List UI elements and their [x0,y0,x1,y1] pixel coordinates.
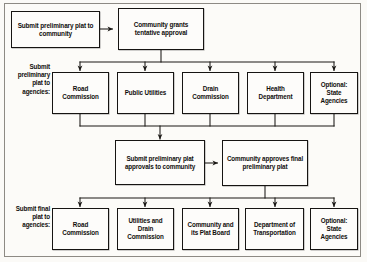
node-label: Department of Transportation [248,221,301,236]
node-optional-state-agencies-final[interactable]: Optional: State Agencies [310,208,358,250]
node-label: Health Department [250,85,301,100]
side-label-text: Submit final plat to agencies: [16,205,50,228]
node-label: Optional: State Agencies [313,81,355,104]
node-label: Community approves final preliminary pla… [225,155,305,170]
node-public-utilities[interactable]: Public Utilities [117,72,174,114]
node-road-commission-final[interactable]: Road Commission [52,208,109,250]
node-label: Community and its Plat Board [185,221,236,236]
node-drain-commission[interactable]: Drain Commission [182,72,239,114]
node-submit-preliminary-plat-approvals-to-community[interactable]: Submit preliminary plat approvals to com… [115,140,205,185]
node-label: Community grants tentative approval [121,21,201,37]
node-submit-preliminary-plat-to-community[interactable]: Submit preliminary plat to community [11,11,100,48]
node-community-and-its-plat-board[interactable]: Community and its Plat Board [182,208,239,250]
node-label: Public Utilities [120,89,171,97]
node-utilities-and-drain-commission[interactable]: Utilities and Drain Commission [117,208,174,250]
side-label-final-agencies: Submit final plat to agencies: [6,205,50,230]
node-label: Submit preliminary plat to community [14,22,97,38]
node-optional-state-agencies-preliminary[interactable]: Optional: State Agencies [310,72,358,114]
node-label: Road Commission [55,85,106,100]
node-label: Drain Commission [185,85,236,100]
node-road-commission-preliminary[interactable]: Road Commission [52,72,109,114]
node-label: Road Commission [55,221,106,236]
node-label: Submit preliminary plat approvals to com… [118,155,202,170]
node-health-department[interactable]: Health Department [247,72,304,114]
node-community-approves-final-preliminary-plat[interactable]: Community approves final preliminary pla… [222,140,308,186]
node-label: Utilities and Drain Commission [120,217,171,240]
flowchart-diagram: Submit preliminary plat to community Com… [0,0,367,262]
node-community-grants-tentative-approval[interactable]: Community grants tentative approval [118,8,204,50]
side-label-preliminary-agencies: Submit preliminary plat to agencies: [8,63,50,96]
side-label-text: Submit preliminary plat to agencies: [18,63,50,95]
node-department-of-transportation[interactable]: Department of Transportation [245,208,304,250]
node-label: Optional: State Agencies [313,217,355,240]
